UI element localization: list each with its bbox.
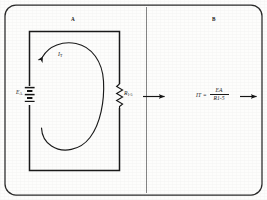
source-voltage-subscript: A [19,92,22,96]
loop-current-label: IT [58,52,62,59]
panel-label-b: B [212,17,216,22]
equation-denominator: R1-5 [212,95,227,101]
circuit-wire-rectangle [30,32,120,171]
panel-label-a: A [71,17,75,22]
equation-lhs-subscript: T [198,92,201,98]
equation-denominator-subscript: 1-5 [217,95,224,101]
loop-current-subscript: T [60,54,62,58]
equation-operator: = [203,92,206,98]
current-loop-arrow-icon [42,43,104,150]
figure-container: A B EA R1-5 IT IT = EA R1-5 [0,0,267,200]
resistance-label: R1-5 [124,91,132,98]
resistance-subscript: 1-5 [127,93,132,97]
equation-numerator-subscript: A [219,87,222,93]
source-voltage-label: EA [16,90,22,97]
ohms-law-equation: IT = EA R1-5 [196,88,230,101]
battery-wire-gap [25,86,35,105]
equation-fraction: EA R1-5 [210,88,229,101]
equation-lhs: IT [196,92,201,98]
